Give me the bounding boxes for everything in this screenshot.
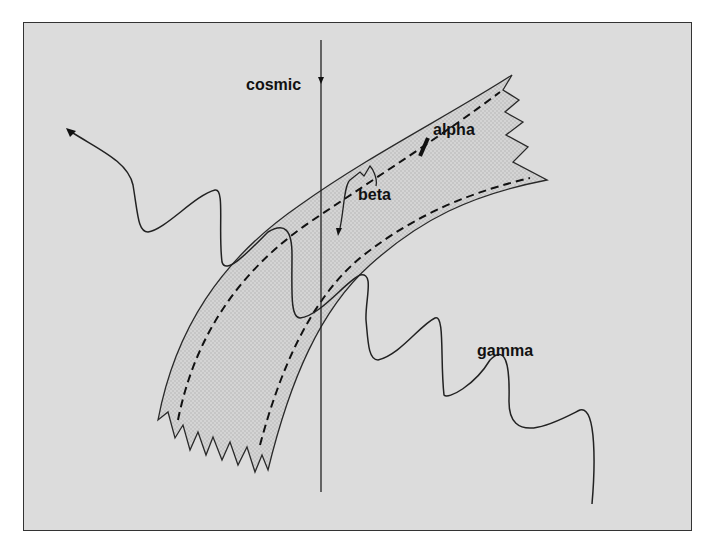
track-arrowhead-icon — [66, 128, 76, 137]
cosmic-label: cosmic — [246, 76, 301, 93]
beta-label: beta — [358, 186, 391, 203]
cosmic-arrowhead-icon — [318, 77, 324, 84]
alpha-label: alpha — [433, 121, 475, 138]
particle-band — [158, 75, 547, 472]
gamma-label: gamma — [477, 342, 533, 359]
diagram-canvas: cosmic alpha beta gamma — [0, 0, 714, 556]
